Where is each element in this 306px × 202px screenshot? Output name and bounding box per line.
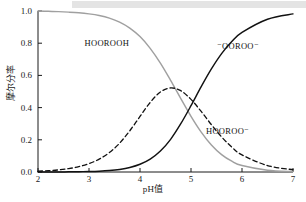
series-line-ooroo (38, 14, 293, 172)
series-line-hooroo (38, 88, 293, 171)
series-line-hoorooh (38, 11, 293, 172)
ticks-group (38, 11, 293, 172)
y-tick-label: 1.0 (8, 6, 32, 16)
y-tick-label: 0.8 (8, 38, 32, 48)
series-group (38, 11, 293, 172)
y-tick-label: 0.0 (8, 167, 32, 177)
axes-group (38, 11, 293, 172)
curve-label-hoorooh: HOOROOH (85, 38, 130, 48)
chart-plot-area (0, 0, 306, 202)
speciation-chart-figure: 234567 0.00.20.40.60.81.0 HOOROOH⁻OOROO⁻… (0, 0, 306, 202)
y-tick-label: 0.2 (8, 135, 32, 145)
x-axis-label: pH值 (0, 182, 306, 195)
y-axis-label: 摩尔分率 (4, 53, 17, 113)
curve-label-hooroo: HOOROO⁻ (206, 126, 249, 136)
curve-label-ooroo: ⁻OOROO⁻ (217, 41, 259, 51)
